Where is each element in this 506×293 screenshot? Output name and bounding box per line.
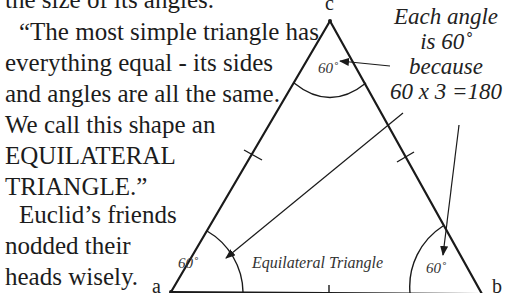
vertex-label-a: a: [152, 275, 161, 293]
diagram-title: Equilateral Triangle: [252, 254, 383, 272]
note-line: Each angle: [384, 4, 506, 29]
angle-label-bottom-right: 60˚: [426, 260, 446, 277]
angle-label-top: 60˚: [318, 60, 338, 77]
note-line: is 60˚: [384, 29, 506, 54]
angle-label-bottom-left: 60˚: [178, 255, 198, 272]
vertex-label-b: b: [492, 275, 502, 293]
note-line: because: [384, 54, 506, 79]
angle-explanation-note: Each angle is 60˚ because 60 x 3 =180: [384, 4, 506, 104]
note-line: 60 x 3 =180: [384, 79, 506, 104]
vertex-label-c: c: [325, 0, 334, 15]
